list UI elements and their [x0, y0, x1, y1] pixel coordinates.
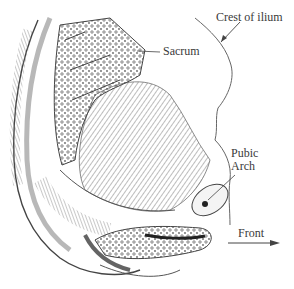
- label-sacrum: Sacrum: [163, 45, 200, 58]
- pelvis-illustration: [0, 0, 294, 289]
- label-front: Front: [238, 227, 264, 240]
- caption-cutoff: [10, 281, 290, 289]
- pelvic-floor-muscles: [79, 82, 210, 211]
- front-arrow-head: [270, 240, 280, 246]
- label-pubic-arch-line2: Arch: [231, 160, 255, 173]
- lower-organs: [95, 226, 211, 258]
- label-crest-of-ilium: Crest of ilium: [216, 11, 283, 24]
